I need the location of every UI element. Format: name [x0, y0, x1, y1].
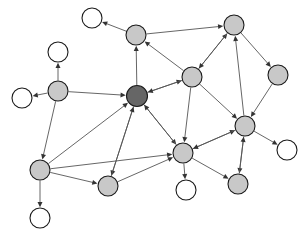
graph-edge: [146, 26, 219, 33]
graph-edge: [48, 105, 125, 164]
edge-arrowhead: [148, 88, 154, 93]
graph-edge: [43, 101, 56, 156]
graph-node-n0[interactable]: [82, 8, 102, 28]
edge-arrowhead: [41, 154, 46, 160]
graph-edge: [253, 84, 273, 114]
edge-arrowhead: [218, 24, 223, 29]
graph-edge: [50, 172, 94, 182]
graph-node-n6[interactable]: [48, 81, 68, 101]
graph-edge: [236, 39, 244, 115]
edge-arrowhead: [56, 63, 61, 68]
edge-arrowhead: [251, 111, 256, 117]
graph-edge: [111, 110, 132, 176]
graph-edge: [192, 158, 225, 177]
graph-edge: [254, 131, 275, 143]
graph-node-n15[interactable]: [176, 180, 196, 200]
edge-arrowhead: [145, 41, 151, 46]
edge-arrowhead: [241, 137, 246, 142]
edge-arrowhead: [33, 92, 39, 97]
graph-node-n2[interactable]: [224, 15, 244, 35]
edge-arrowhead: [134, 46, 139, 51]
graph-edge: [184, 163, 185, 175]
graph-node-n13[interactable]: [228, 174, 248, 194]
edge-arrowhead: [92, 180, 98, 185]
graph-edge: [196, 130, 235, 147]
graph-svg: [0, 0, 307, 239]
graph-edge: [151, 80, 182, 91]
graph-node-n8[interactable]: [12, 88, 32, 108]
graph-node-n11[interactable]: [277, 140, 297, 160]
graph-node-n3[interactable]: [48, 42, 68, 62]
graph-node-n1[interactable]: [126, 25, 146, 45]
graph-node-n12[interactable]: [30, 160, 50, 180]
edge-arrowhead: [38, 202, 43, 207]
graph-edge: [185, 87, 191, 138]
graph-node-n4[interactable]: [182, 67, 202, 87]
edge-arrowhead: [233, 36, 238, 41]
graph-edge: [147, 44, 183, 71]
edge-arrowhead: [182, 137, 187, 142]
edge-arrowhead: [120, 92, 125, 97]
graph-node-n14[interactable]: [98, 176, 118, 196]
graph-edge: [146, 107, 176, 144]
graph-node-n5[interactable]: [268, 65, 288, 85]
graph-edge: [200, 84, 235, 116]
graph-edge: [201, 33, 227, 66]
graph-node-n7[interactable]: [127, 86, 148, 107]
edge-arrowhead: [182, 174, 187, 179]
edge-arrowhead: [167, 152, 172, 157]
graph-node-n16[interactable]: [30, 208, 50, 228]
edge-arrowhead: [122, 103, 128, 108]
graph-edge: [68, 92, 122, 95]
graph-node-n9[interactable]: [235, 116, 255, 136]
graph-edge: [136, 49, 137, 85]
graph-edge: [105, 23, 126, 31]
graph-edge: [241, 33, 269, 64]
edge-arrowhead: [130, 107, 135, 113]
graph-edge: [118, 159, 170, 182]
graph-node-n10[interactable]: [173, 143, 193, 163]
network-graph-canvas: [0, 0, 307, 239]
